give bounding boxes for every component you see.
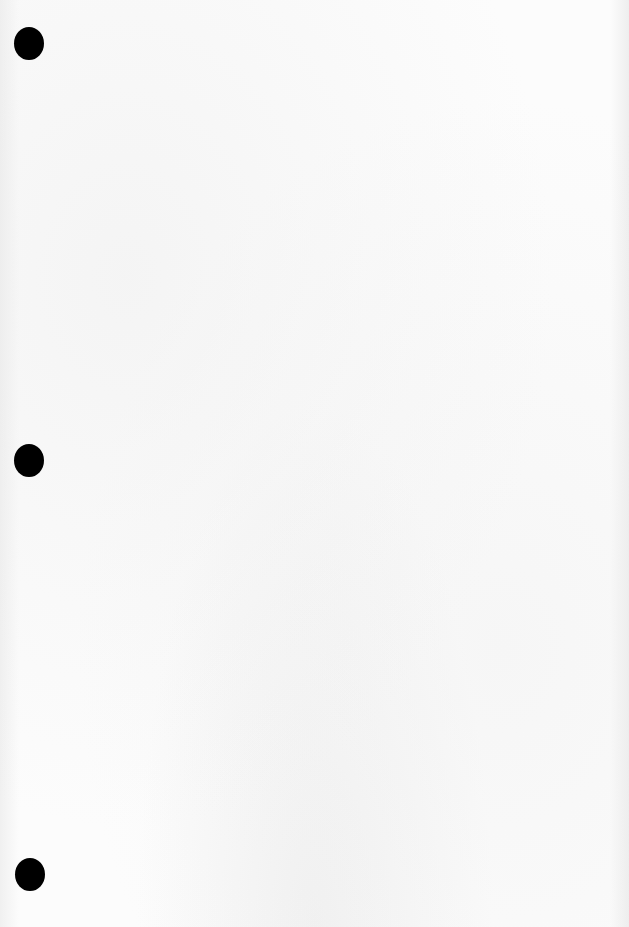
punch-hole-middle xyxy=(14,444,44,477)
punch-hole-top xyxy=(14,27,44,60)
punch-hole-bottom xyxy=(15,858,45,891)
blank-page xyxy=(0,0,629,927)
